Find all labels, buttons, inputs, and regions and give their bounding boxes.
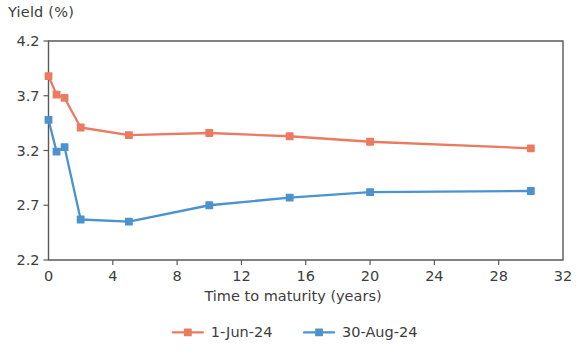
- x-tick-label: 28: [489, 268, 507, 284]
- legend-marker-swatch: [315, 329, 323, 337]
- chart-canvas: 2.22.73.23.74.2 048121620242832 Time to …: [0, 0, 584, 354]
- series-marker: [61, 143, 69, 151]
- x-axis-ticks: 048121620242832: [44, 260, 572, 284]
- series-marker: [77, 216, 85, 224]
- series-marker: [205, 129, 213, 137]
- legend-item[interactable]: 1-Jun-24: [173, 324, 273, 340]
- series-marker: [366, 138, 374, 146]
- y-tick-label: 3.7: [16, 88, 39, 104]
- plot-frame: [49, 41, 564, 260]
- chart-legend: 1-Jun-2430-Aug-24: [173, 324, 418, 340]
- series-marker: [125, 131, 133, 139]
- series-marker: [527, 187, 535, 195]
- series-marker: [205, 201, 213, 209]
- x-tick-label: 24: [425, 268, 443, 284]
- data-series-group: [45, 72, 535, 225]
- series-marker: [45, 116, 53, 124]
- legend-label: 1-Jun-24: [211, 324, 273, 340]
- series-marker: [53, 148, 61, 156]
- x-tick-label: 4: [108, 268, 117, 284]
- yield-curve-chart: Yield (%) 2.22.73.23.74.2 04812162024283…: [0, 0, 584, 354]
- y-tick-label: 2.7: [16, 197, 39, 213]
- series-marker: [77, 124, 85, 132]
- x-tick-label: 20: [361, 268, 379, 284]
- x-tick-label: 12: [232, 268, 250, 284]
- y-tick-label: 4.2: [16, 33, 39, 49]
- series-marker: [527, 144, 535, 152]
- x-tick-label: 8: [173, 268, 182, 284]
- x-tick-label: 32: [554, 268, 572, 284]
- series-marker: [125, 218, 133, 226]
- series-marker: [61, 94, 69, 102]
- series-marker: [286, 132, 294, 140]
- y-tick-label: 3.2: [16, 143, 39, 159]
- y-axis-ticks: 2.22.73.23.74.2: [16, 33, 48, 268]
- series-marker: [53, 91, 61, 99]
- series-marker: [45, 72, 53, 80]
- x-tick-label: 0: [44, 268, 53, 284]
- series-marker: [366, 188, 374, 196]
- legend-label: 30-Aug-24: [342, 324, 417, 340]
- x-tick-label: 16: [297, 268, 315, 284]
- x-axis-title: Time to maturity (years): [203, 288, 381, 304]
- legend-item[interactable]: 30-Aug-24: [304, 324, 417, 340]
- series-marker: [286, 194, 294, 202]
- plot-border: [49, 41, 564, 260]
- data-series: [45, 72, 535, 152]
- legend-marker-swatch: [184, 329, 192, 337]
- y-tick-label: 2.2: [16, 252, 39, 268]
